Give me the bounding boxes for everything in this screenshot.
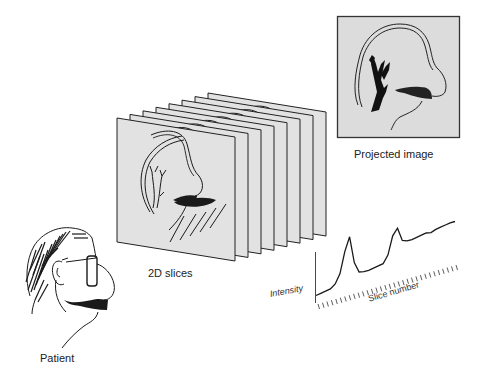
slices-label: 2D slices: [148, 267, 193, 279]
patient-head: [26, 228, 114, 348]
slice-plane: [117, 118, 235, 261]
patient-label: Patient: [40, 352, 74, 364]
projected-image-label: Projected image: [354, 148, 434, 160]
intensity-curve: [316, 222, 455, 296]
diagram-canvas: [0, 0, 477, 380]
projected-image: [338, 17, 460, 138]
slice-stack: [117, 93, 326, 261]
